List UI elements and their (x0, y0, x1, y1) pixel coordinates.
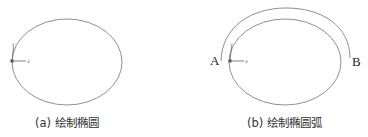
elliptical-arc-ab (221, 8, 350, 61)
figure-b: x y (221, 8, 350, 105)
svg-text:y: y (12, 41, 15, 48)
point-label-b: B (352, 54, 361, 70)
ucs-axes-icon: x y (229, 41, 249, 64)
point-label-a: A (210, 53, 219, 69)
caption-a: (a) 绘制椭圆 (35, 114, 99, 130)
caption-b: (b) 绘制椭圆弧 (247, 114, 322, 130)
svg-text:y: y (230, 41, 233, 48)
svg-text:x: x (245, 58, 248, 64)
figure-a: x y (11, 19, 123, 105)
svg-text:x: x (27, 58, 30, 64)
